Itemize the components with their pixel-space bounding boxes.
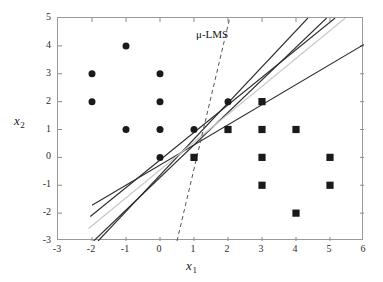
x-axis-title-subscript: 1 <box>192 265 197 275</box>
x-tick-label: 0 <box>157 244 162 254</box>
x-tick-label: 1 <box>191 244 196 254</box>
y-tick-label: 4 <box>35 40 51 50</box>
data-point-circle <box>157 126 164 133</box>
x-tick-label: 6 <box>361 244 366 254</box>
y-tick-label: 5 <box>35 12 51 22</box>
x-tick-label: 3 <box>259 244 264 254</box>
y-axis-title-text: x <box>14 113 20 128</box>
y-tick-label: 1 <box>35 124 51 134</box>
data-point-circle <box>123 42 130 49</box>
y-tick-label: 3 <box>35 68 51 78</box>
data-point-square <box>326 182 333 189</box>
x-tick-label: -1 <box>121 244 129 254</box>
data-point-circle <box>157 98 164 105</box>
plot-canvas <box>58 18 364 241</box>
data-point-square <box>224 126 231 133</box>
data-point-circle <box>89 98 96 105</box>
x-tick-label: 2 <box>225 244 230 254</box>
data-point-square <box>258 154 265 161</box>
data-point-square <box>190 154 197 161</box>
x-tick-label: -2 <box>87 244 95 254</box>
boundary-solid-1 <box>92 44 364 205</box>
data-point-square <box>326 154 333 161</box>
boundary-solid-4 <box>98 18 308 241</box>
data-point-circle <box>157 70 164 77</box>
y-tick-label: -2 <box>35 207 51 217</box>
data-point-square <box>258 126 265 133</box>
data-point-circle <box>89 70 96 77</box>
data-point-square <box>258 182 265 189</box>
data-point-circle <box>123 126 130 133</box>
y-tick-label: -3 <box>35 235 51 245</box>
data-point-circle <box>225 98 232 105</box>
mu-lms-annotation-label: μ-LMS <box>196 28 228 40</box>
y-tick-label: 0 <box>35 151 51 161</box>
tick-marks <box>58 18 364 241</box>
x-tick-label: 4 <box>293 244 298 254</box>
x-axis-title: x1 <box>0 258 383 275</box>
x-tick-label: -3 <box>53 244 61 254</box>
series-class-2-squares <box>190 98 333 217</box>
y-tick-label: 2 <box>35 96 51 106</box>
data-point-square <box>258 98 265 105</box>
data-point-circle <box>157 154 164 161</box>
data-point-square <box>292 210 299 217</box>
y-axis-title: x2 <box>14 113 25 130</box>
y-tick-label: -1 <box>35 179 51 189</box>
x-tick-label: 5 <box>327 244 332 254</box>
data-point-circle <box>191 126 198 133</box>
boundary-gray <box>89 18 346 228</box>
y-axis-title-subscript: 2 <box>20 119 25 129</box>
series-class-1-circles <box>89 42 232 161</box>
data-point-square <box>292 126 299 133</box>
plot-area <box>57 17 363 240</box>
chart-figure: -3-2-10123456 -3-2-1012345 x1 x2 μ-LMS <box>0 0 383 282</box>
